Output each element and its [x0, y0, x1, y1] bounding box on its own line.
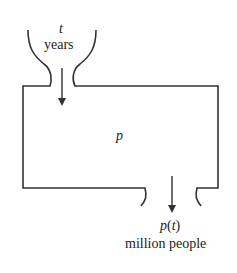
output-unit-label: million people	[125, 237, 206, 251]
input-arrow-icon	[58, 68, 66, 106]
output-close-paren: )	[176, 218, 181, 233]
box-outline-right	[73, 30, 218, 206]
output-arrow-icon	[168, 176, 176, 213]
output-variable-label: p(t)	[160, 219, 180, 233]
input-variable-label: t	[59, 22, 63, 36]
box-outline-left	[23, 30, 146, 206]
output-function-name: p	[160, 218, 167, 233]
input-unit-label: years	[44, 38, 74, 52]
box-label: p	[116, 129, 123, 143]
